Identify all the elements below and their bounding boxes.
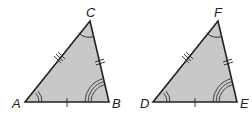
vertex-label-c: C: [86, 5, 96, 20]
diagram-canvas: A B C D E F: [0, 0, 252, 119]
vertex-label-b: B: [112, 96, 121, 111]
triangle-abc: A B C: [11, 5, 121, 111]
vertex-label-f: F: [214, 5, 223, 20]
vertex-label-a: A: [11, 96, 21, 111]
vertex-label-e: E: [240, 96, 249, 111]
vertex-label-d: D: [140, 96, 149, 111]
triangle-def: D E F: [140, 5, 249, 111]
